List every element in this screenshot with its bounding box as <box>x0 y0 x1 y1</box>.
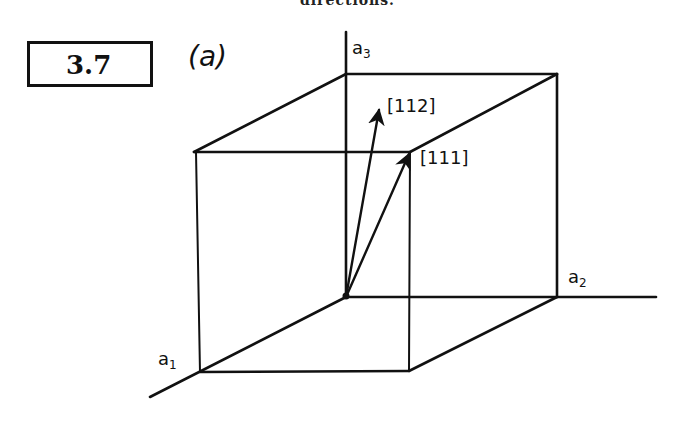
direction-label-112: [112] <box>387 95 435 116</box>
axis-a3-base: a <box>352 37 363 58</box>
direction-111-arrow <box>346 154 409 297</box>
a1-axis-line <box>150 297 346 397</box>
top-left-recede-edge <box>194 74 346 152</box>
front-left-edge <box>196 152 200 372</box>
axis-label-a1: a1 <box>158 348 177 372</box>
direction-label-111: [111] <box>420 147 468 168</box>
axis-a2-base: a <box>568 266 579 287</box>
axis-label-a3: a3 <box>352 37 371 61</box>
axis-a3-sub: 3 <box>363 47 371 61</box>
origin-point <box>343 293 350 300</box>
axis-a1-sub: 1 <box>169 358 177 372</box>
bottom-right-recede-edge <box>409 297 557 371</box>
axis-a2-sub: 2 <box>579 276 587 290</box>
axis-a1-base: a <box>158 348 169 369</box>
unit-cell-diagram: directions. 3.7 (a) <box>0 0 677 424</box>
front-right-edge <box>409 152 410 371</box>
front-bottom-edge <box>200 371 409 372</box>
cube-drawing <box>0 0 677 424</box>
direction-112-arrow <box>346 110 379 297</box>
axis-label-a2: a2 <box>568 266 587 290</box>
